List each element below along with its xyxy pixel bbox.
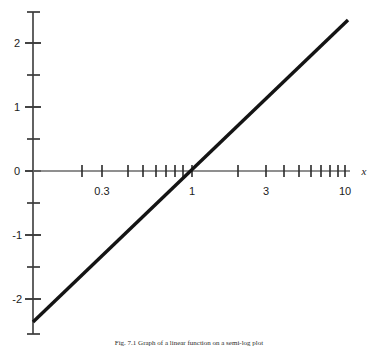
x-tick-label-10: 10 (339, 185, 351, 197)
y-tick-label-neg2: -2 (12, 293, 22, 305)
y-tick-label-1: 1 (14, 101, 20, 113)
y-tick-label-0: 0 (14, 165, 20, 177)
x-tick-label-0p3: 0.3 (94, 185, 109, 197)
y-tick-label-2: 2 (14, 37, 20, 49)
x-tick-label-3: 3 (263, 185, 269, 197)
y-tick-label-neg1: -1 (12, 229, 22, 241)
x-tick-label-1: 1 (189, 185, 195, 197)
x-axis-label: x (361, 165, 367, 177)
figure-caption: Fig. 7.1 Graph of a linear function on a… (0, 338, 378, 347)
